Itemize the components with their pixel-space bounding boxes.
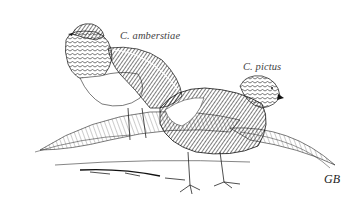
artist-signature: GB [324,172,340,187]
ground-perch [55,161,250,180]
species-label-amherstiae: C. amberstiae [120,30,180,41]
illustration-canvas: C. amberstiae C. pictus GB [0,0,356,211]
species-label-pictus: C. pictus [243,61,281,72]
